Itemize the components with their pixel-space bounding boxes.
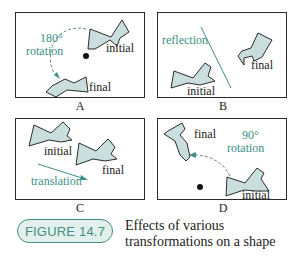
center-point (197, 184, 203, 190)
annotation-reflection: reflection (162, 34, 208, 46)
panel-d-label: D (213, 201, 233, 216)
initial-label: initial (44, 145, 72, 157)
figure-number-badge: FIGURE 14.7 (17, 219, 113, 243)
final-label: final (102, 164, 124, 176)
final-shape (76, 139, 117, 165)
panel-b-label: B (213, 99, 233, 114)
final-label: final (89, 81, 111, 93)
final-shape (164, 123, 190, 161)
final-label: final (194, 128, 216, 140)
annotation-rotation: rotation (227, 142, 264, 154)
caption-line-2: transformations on a shape (125, 234, 275, 250)
panel-b-graphic (158, 13, 288, 99)
panel-c-graphic (16, 119, 146, 201)
annotation-translation: translation (31, 175, 82, 187)
initial-shape (29, 122, 72, 146)
final-label: final (251, 59, 273, 71)
caption-line-1: Effects of various (125, 218, 275, 234)
panel-c: initial final translation (15, 118, 145, 200)
final-shape (46, 77, 88, 97)
panel-a-label: A (70, 99, 90, 114)
initial-label: initial (187, 85, 215, 97)
panel-b: reflection final initial (157, 12, 287, 98)
rotation-arrow-icon (194, 155, 230, 176)
initial-label: initial (106, 42, 134, 54)
center-point (83, 53, 89, 59)
annotation-degrees: 180° (40, 32, 63, 44)
figure-caption: Effects of various transformations on a … (125, 218, 275, 250)
annotation-degrees: 90° (242, 129, 259, 141)
annotation-rotation: rotation (26, 45, 63, 57)
panel-a: 180° rotation initial final (15, 12, 145, 98)
panel-c-label: C (70, 201, 90, 216)
initial-label: initial (242, 189, 270, 201)
panel-d: final 90° rotation initial (157, 118, 287, 200)
